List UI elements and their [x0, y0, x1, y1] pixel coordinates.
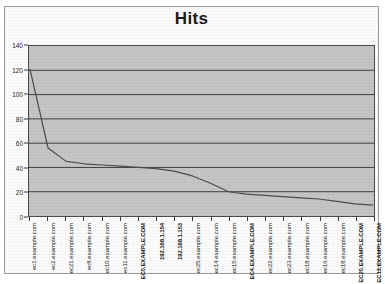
x-tick-label: ec21.example.com: [68, 223, 74, 273]
x-tick-mark: [374, 217, 375, 221]
chart-frame: Hits 020406080100120140 ec1.example.come…: [4, 6, 379, 274]
x-tick-label: EC0.EXAMPLE.COM: [140, 223, 146, 280]
x-tick-label: EC4.EXAMPLE.COM: [249, 223, 255, 280]
x-tick-mark: [174, 217, 175, 221]
y-tick-label: 40: [16, 164, 23, 171]
y-tick-label: 60: [16, 140, 23, 147]
x-tick-label: ec25.example.com: [195, 223, 201, 273]
x-tick-label: EC13.EXAMPLE.COM: [376, 223, 382, 283]
x-tick-mark: [338, 217, 339, 221]
x-tick-label: ec16.example.com: [322, 223, 328, 273]
y-tick-label: 20: [16, 189, 23, 196]
y-tick-label: 140: [12, 42, 23, 49]
x-tick-mark: [138, 217, 139, 221]
series-hits-line: [30, 69, 373, 205]
x-tick-label: ec10.example.com: [104, 223, 110, 273]
x-tick-label: ec23.example.com: [286, 223, 292, 273]
x-tick-mark: [301, 217, 302, 221]
x-tick-mark: [229, 217, 230, 221]
x-tick-label: 192.168.1.154: [159, 223, 165, 260]
x-axis: ec1.example.comec2.example.comec21.examp…: [28, 217, 375, 284]
x-tick-label: 192.168.1.153: [177, 223, 183, 260]
x-tick-label: ec15.example.com: [231, 223, 237, 273]
x-tick-mark: [47, 217, 48, 221]
y-tick-label: 80: [16, 115, 23, 122]
data-series-line: [29, 46, 374, 216]
x-tick-mark: [29, 217, 30, 221]
x-tick-mark: [283, 217, 284, 221]
x-tick-mark: [247, 217, 248, 221]
x-tick-mark: [356, 217, 357, 221]
x-tick-label: ec11.example.com: [122, 223, 128, 273]
chart-title: Hits: [5, 9, 378, 29]
x-tick-label: ec22.example.com: [267, 223, 273, 273]
y-axis: 020406080100120140: [5, 45, 28, 217]
x-tick-mark: [156, 217, 157, 221]
x-tick-label: ec8.example.com: [86, 223, 92, 270]
x-tick-mark: [102, 217, 103, 221]
x-tick-label: EC20.EXAMPLE.COM: [358, 223, 364, 283]
x-tick-label: ec14.example.com: [213, 223, 219, 273]
x-tick-mark: [211, 217, 212, 221]
x-tick-mark: [83, 217, 84, 221]
x-tick-label: ec18.example.com: [304, 223, 310, 273]
y-tick-label: 0: [19, 214, 23, 221]
x-tick-label: ec1.example.com: [31, 223, 37, 270]
x-tick-mark: [120, 217, 121, 221]
y-tick-label: 100: [12, 91, 23, 98]
x-tick-mark: [65, 217, 66, 221]
x-tick-mark: [265, 217, 266, 221]
x-tick-mark: [320, 217, 321, 221]
plot-area: [28, 45, 375, 217]
x-tick-label: ec18.example.com: [340, 223, 346, 273]
x-tick-label: ec2.example.com: [50, 223, 56, 270]
x-tick-mark: [192, 217, 193, 221]
y-tick-label: 120: [12, 66, 23, 73]
